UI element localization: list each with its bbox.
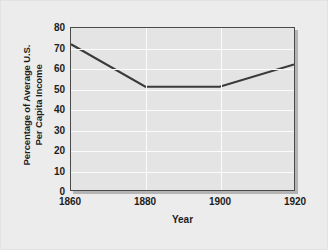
y-axis-title-line-2: Per Capita Income [32, 45, 44, 166]
series-polyline [71, 44, 294, 87]
y-axis-title: Percentage of Average U.S. Per Capita In… [15, 19, 49, 191]
vertical-gridline [146, 28, 147, 190]
x-tick-label: 1920 [284, 196, 306, 207]
y-axis-tick-labels: 01020304050607080 [45, 26, 68, 194]
y-tick-label: 10 [54, 165, 65, 176]
y-tick-label: 20 [54, 145, 65, 156]
x-axis-tick-labels: 1860188019001920 [70, 196, 295, 212]
x-tick-label: 1860 [59, 196, 81, 207]
y-tick-label: 80 [54, 22, 65, 33]
x-tick-label: 1900 [209, 196, 231, 207]
y-tick-label: 0 [59, 186, 65, 197]
horizontal-gridline [71, 90, 294, 91]
x-tick-label: 1880 [134, 196, 156, 207]
horizontal-gridline [71, 49, 294, 50]
horizontal-gridline [71, 172, 294, 173]
y-tick-label: 70 [54, 42, 65, 53]
y-tick-label: 30 [54, 124, 65, 135]
y-tick-label: 40 [54, 104, 65, 115]
y-tick-label: 50 [54, 83, 65, 94]
y-axis-title-text: Percentage of Average U.S. Per Capita In… [21, 45, 44, 166]
horizontal-gridline [71, 69, 294, 70]
plot-area [70, 27, 295, 191]
chart-figure: Percentage of Average U.S. Per Capita In… [0, 0, 328, 250]
horizontal-gridline [71, 131, 294, 132]
y-tick-label: 60 [54, 63, 65, 74]
horizontal-gridline [71, 110, 294, 111]
horizontal-gridline [71, 151, 294, 152]
line-series [71, 28, 294, 190]
x-axis-title: Year [70, 214, 295, 225]
vertical-gridline [221, 28, 222, 190]
y-axis-title-line-1: Percentage of Average U.S. [21, 45, 33, 166]
